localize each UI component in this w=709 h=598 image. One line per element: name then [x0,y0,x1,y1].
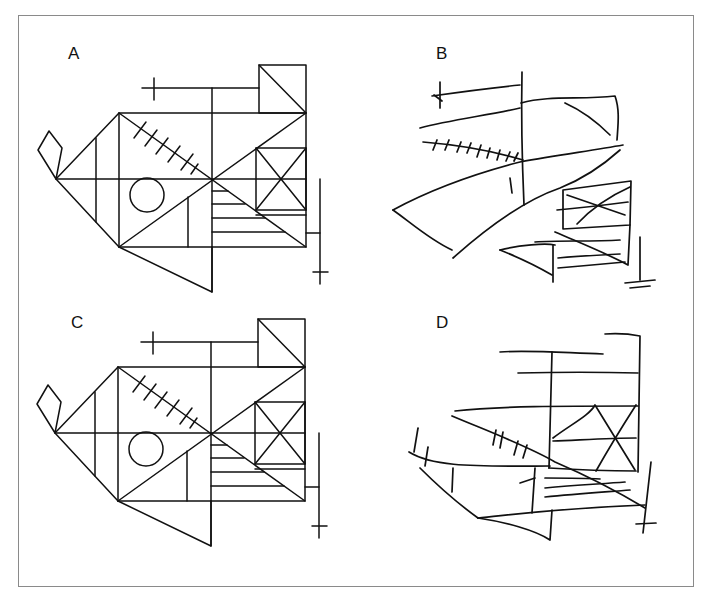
panel-a-figure [38,65,328,292]
figure-canvas [0,0,709,598]
panel-b-figure [393,72,655,288]
panel-c-figure [37,319,327,546]
panel-d-figure [409,334,656,540]
